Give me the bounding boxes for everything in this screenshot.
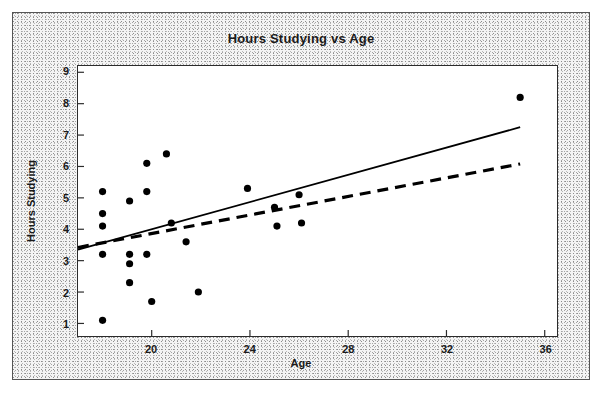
plot-area (77, 65, 558, 337)
y-tick-label: 6 (47, 160, 69, 172)
scatter-point (163, 150, 170, 157)
y-tick-label: 4 (47, 223, 69, 235)
scatter-point (271, 204, 278, 211)
y-axis-title: Hours Studying (25, 160, 37, 242)
scatter-point (148, 298, 155, 305)
scatter-point (99, 188, 106, 195)
x-tick-label: 32 (441, 343, 453, 355)
trend-lines (78, 127, 520, 249)
scatter-points (99, 94, 524, 324)
scatter-point (143, 251, 150, 258)
x-axis-title: Age (13, 357, 589, 369)
scatter-point (295, 191, 302, 198)
scatter-point (99, 223, 106, 230)
x-tick-label: 36 (540, 343, 552, 355)
scatter-point (298, 219, 305, 226)
scatter-point (99, 317, 106, 324)
scatter-point (99, 210, 106, 217)
scatter-point (126, 197, 133, 204)
scatter-point (517, 94, 524, 101)
y-tick-label: 2 (47, 287, 69, 299)
x-tick-label: 24 (244, 343, 256, 355)
chart-figure: Hours Studying vs Age Hours Studying Age… (0, 0, 604, 395)
scatter-point (244, 185, 251, 192)
chart-title: Hours Studying vs Age (13, 31, 589, 46)
y-tick-label: 3 (47, 255, 69, 267)
plot-canvas (78, 66, 557, 336)
scatter-point (143, 160, 150, 167)
scatter-point (99, 251, 106, 258)
y-tick-label: 7 (47, 129, 69, 141)
scatter-point (126, 279, 133, 286)
scatter-point (273, 223, 280, 230)
y-tick-label: 9 (47, 65, 69, 77)
y-tick-label: 1 (47, 318, 69, 330)
scatter-point (126, 251, 133, 258)
y-tick-label: 5 (47, 192, 69, 204)
scatter-point (195, 288, 202, 295)
regression-line-dashed (78, 164, 520, 248)
scatter-point (182, 238, 189, 245)
scatter-point (126, 260, 133, 267)
x-tick-label: 20 (145, 343, 157, 355)
chart-frame: Hours Studying vs Age Hours Studying Age… (12, 12, 590, 380)
x-tick-label: 28 (342, 343, 354, 355)
regression-line-solid (78, 127, 520, 249)
scatter-point (168, 219, 175, 226)
y-tick-label: 8 (47, 97, 69, 109)
scatter-point (143, 188, 150, 195)
